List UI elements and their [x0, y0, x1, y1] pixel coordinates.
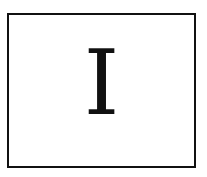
letter-glyph: I — [9, 38, 194, 128]
letter-card: I — [7, 13, 196, 168]
